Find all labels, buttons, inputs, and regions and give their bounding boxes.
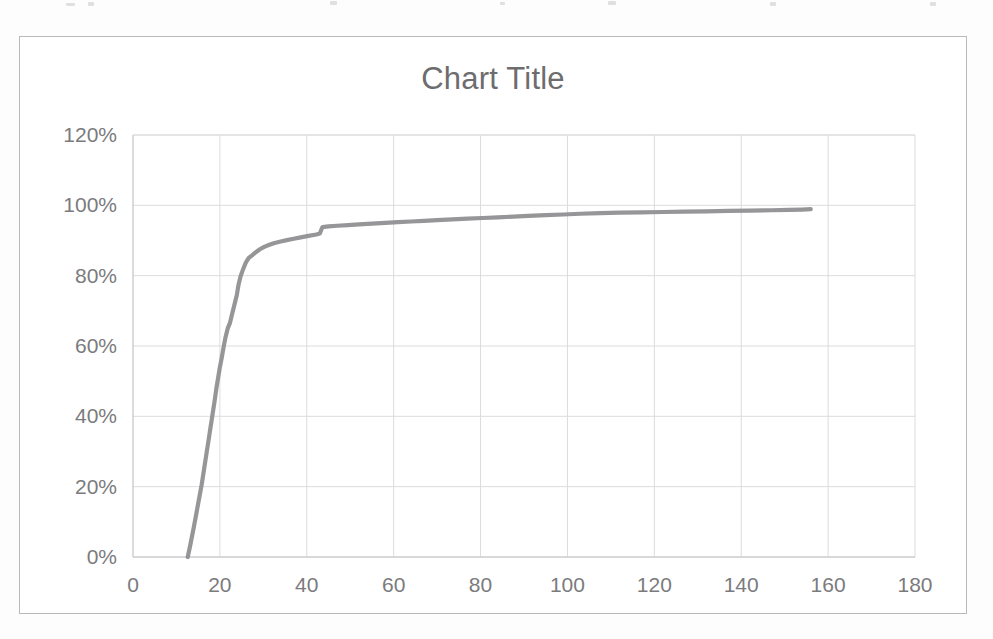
y-tick-label: 40% [20, 404, 117, 428]
scan-artifact [66, 3, 75, 6]
x-tick-label: 20 [208, 573, 231, 597]
y-tick-label: 120% [20, 123, 117, 147]
gridlines [133, 135, 915, 557]
x-tick-label: 80 [469, 573, 492, 597]
scan-artifact [330, 1, 337, 5]
x-tick-label: 60 [382, 573, 405, 597]
chart-page: Chart Title 0%20%40%60%80%100%120% 02040… [0, 0, 993, 639]
x-tick-label: 160 [811, 573, 846, 597]
scan-artifact [500, 2, 505, 5]
series-lines [188, 209, 811, 557]
y-tick-label: 100% [20, 193, 117, 217]
y-tick-label: 80% [20, 264, 117, 288]
scan-artifact [88, 2, 94, 6]
y-tick-label: 60% [20, 334, 117, 358]
x-tick-label: 140 [724, 573, 759, 597]
x-tick-label: 40 [295, 573, 318, 597]
plot-area [20, 37, 966, 613]
x-tick-label: 100 [550, 573, 585, 597]
x-tick-label: 0 [127, 573, 139, 597]
x-tick-label: 120 [637, 573, 672, 597]
scan-artifact [608, 1, 616, 5]
chart-frame: Chart Title 0%20%40%60%80%100%120% 02040… [19, 36, 967, 614]
y-tick-label: 0% [20, 545, 117, 569]
scan-artifact [930, 2, 936, 6]
y-tick-label: 20% [20, 475, 117, 499]
scan-artifact [770, 2, 776, 6]
x-tick-label: 180 [897, 573, 932, 597]
